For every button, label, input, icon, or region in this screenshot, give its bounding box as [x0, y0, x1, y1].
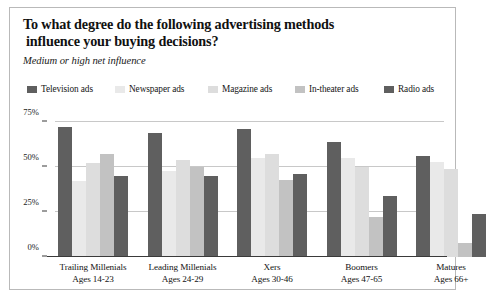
- bar[interactable]: [369, 217, 383, 257]
- bar-group: [327, 113, 397, 257]
- bar[interactable]: [148, 133, 162, 257]
- legend-item-2[interactable]: Magazine ads: [208, 84, 272, 94]
- legend-item-label: Newspaper ads: [129, 84, 184, 94]
- legend-item-4[interactable]: Radio ads: [384, 84, 434, 94]
- bar-group: [416, 113, 486, 257]
- chart-card: To what degree do the following advertis…: [9, 7, 456, 290]
- category-age-range: Ages 24-29: [132, 273, 234, 285]
- bar[interactable]: [430, 162, 444, 257]
- x-axis-category-label: Trailing MillenialsAges 14-23: [42, 261, 144, 285]
- bar[interactable]: [72, 181, 86, 257]
- bar-group: [58, 113, 128, 257]
- bar-group: [237, 113, 307, 257]
- bar[interactable]: [355, 167, 369, 257]
- title-block: To what degree do the following advertis…: [23, 16, 443, 66]
- chart-title-line-1: To what degree do the following advertis…: [23, 16, 334, 32]
- y-axis-tick-label: 75%: [23, 107, 39, 117]
- y-axis-tick-label: 50%: [23, 152, 39, 162]
- bar[interactable]: [114, 176, 128, 257]
- legend-swatch-icon: [295, 86, 305, 93]
- legend-item-label: In-theater ads: [309, 84, 358, 94]
- x-axis-line: [47, 256, 447, 257]
- legend-swatch-icon: [115, 86, 125, 93]
- category-name: Xers: [264, 262, 281, 272]
- bar-group: [148, 113, 218, 257]
- category-age-range: Ages 30-46: [221, 273, 323, 285]
- bar[interactable]: [100, 154, 114, 257]
- bar[interactable]: [383, 196, 397, 257]
- bar[interactable]: [265, 154, 279, 257]
- legend-item-1[interactable]: Newspaper ads: [115, 84, 184, 94]
- chart-subtitle: Medium or high net influence: [23, 55, 443, 66]
- category-name: Matures: [436, 262, 465, 272]
- chart-title-line-2: influence your buying decisions?: [23, 33, 443, 50]
- category-name: Leading Millenials: [149, 262, 217, 272]
- legend-item-label: Radio ads: [398, 84, 434, 94]
- x-axis-category-label: Leading MillenialsAges 24-29: [132, 261, 234, 285]
- legend-item-0[interactable]: Television ads: [27, 84, 93, 94]
- legend-item-label: Television ads: [41, 84, 93, 94]
- category-name: Boomers: [345, 262, 377, 272]
- y-axis-tick-label: 25%: [23, 197, 39, 207]
- bar[interactable]: [444, 169, 458, 257]
- bar[interactable]: [86, 163, 100, 257]
- bar[interactable]: [190, 167, 204, 257]
- bar[interactable]: [341, 158, 355, 257]
- y-axis-tick-mark: [42, 166, 47, 167]
- bar[interactable]: [58, 127, 72, 257]
- bar[interactable]: [279, 180, 293, 257]
- legend-item-label: Magazine ads: [222, 84, 272, 94]
- x-axis-category-label: BoomersAges 47-65: [311, 261, 413, 285]
- bar[interactable]: [472, 214, 486, 257]
- plot-area: [55, 113, 444, 257]
- chart-legend: Television adsNewspaper adsMagazine adsI…: [27, 84, 447, 96]
- bar[interactable]: [176, 160, 190, 257]
- y-axis: 0%25%50%75%: [10, 113, 48, 257]
- bar[interactable]: [327, 142, 341, 257]
- category-age-range: Ages 47-65: [311, 273, 413, 285]
- page-title: To what degree do the following advertis…: [23, 16, 443, 50]
- bar[interactable]: [251, 158, 265, 257]
- y-axis-tick-label: 0%: [28, 242, 39, 252]
- legend-swatch-icon: [27, 86, 37, 93]
- bar[interactable]: [162, 171, 176, 257]
- x-axis-category-label: MaturesAges 66+: [400, 261, 490, 285]
- bar[interactable]: [293, 174, 307, 257]
- bar[interactable]: [458, 243, 472, 257]
- category-age-range: Ages 66+: [400, 273, 490, 285]
- bar[interactable]: [416, 156, 430, 257]
- legend-swatch-icon: [208, 86, 218, 93]
- legend-swatch-icon: [384, 86, 394, 93]
- y-axis-tick-mark: [42, 211, 47, 212]
- bar[interactable]: [237, 129, 251, 257]
- y-axis-tick-mark: [42, 121, 47, 122]
- x-axis-category-label: XersAges 30-46: [221, 261, 323, 285]
- bar[interactable]: [204, 176, 218, 257]
- category-age-range: Ages 14-23: [42, 273, 144, 285]
- category-name: Trailing Millenials: [60, 262, 127, 272]
- legend-item-3[interactable]: In-theater ads: [295, 84, 358, 94]
